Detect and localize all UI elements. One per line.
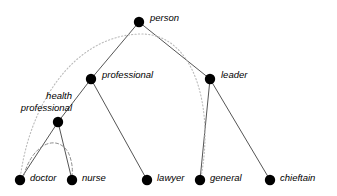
node-leader[interactable] <box>205 74 215 84</box>
edge-leader-chieftain <box>210 79 270 180</box>
node-label-line: leader <box>221 69 247 80</box>
node-professional[interactable] <box>86 74 96 84</box>
node-label-health-professional: healthprofessional <box>0 90 72 113</box>
edge-health-professional-nurse <box>58 122 72 180</box>
node-chieftain[interactable] <box>265 175 275 185</box>
node-nurse[interactable] <box>67 175 77 185</box>
curve-doctor-to-nurse-arc <box>24 143 72 175</box>
node-person[interactable] <box>134 17 144 27</box>
node-label-nurse: nurse <box>82 172 106 183</box>
node-label-line: professional <box>102 69 153 80</box>
node-label-line: chieftain <box>280 172 315 183</box>
node-label-line: nurse <box>82 172 106 183</box>
node-label-line: health <box>0 90 72 102</box>
node-label-line: professional <box>0 102 72 114</box>
node-general[interactable] <box>195 175 205 185</box>
node-lawyer[interactable] <box>142 175 152 185</box>
node-label-person: person <box>150 12 179 23</box>
edge-professional-lawyer <box>91 79 147 180</box>
node-label-leader: leader <box>221 69 247 80</box>
node-label-professional: professional <box>102 69 153 80</box>
node-label-line: lawyer <box>157 172 184 183</box>
node-label-general: general <box>210 172 242 183</box>
node-label-line: person <box>150 12 179 23</box>
node-label-lawyer: lawyer <box>157 172 184 183</box>
node-label-doctor: doctor <box>30 172 56 183</box>
node-label-chieftain: chieftain <box>280 172 315 183</box>
node-label-line: general <box>210 172 242 183</box>
node-health-professional[interactable] <box>53 117 63 127</box>
diagram-canvas: person professional leader healthprofess… <box>0 0 337 196</box>
node-doctor[interactable] <box>15 175 25 185</box>
node-label-line: doctor <box>30 172 56 183</box>
